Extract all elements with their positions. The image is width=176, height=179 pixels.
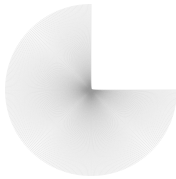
ray-line — [30, 90, 91, 151]
ray-line — [91, 90, 152, 151]
ray-group — [5, 4, 176, 176]
ray-line — [30, 29, 91, 90]
radial-burst-figure — [0, 0, 176, 179]
radial-lines-svg — [0, 0, 176, 179]
